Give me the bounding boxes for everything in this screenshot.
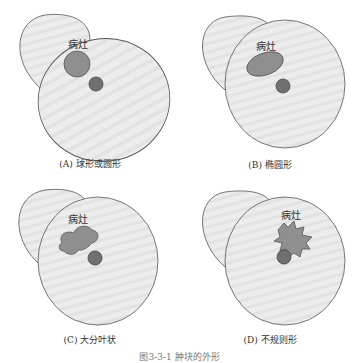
lesion-label: 病灶: [68, 211, 88, 226]
organ-diagram-d: [180, 175, 359, 353]
caption-a: (A) 球形或圆形: [0, 157, 180, 170]
panel-a: 病灶 (A) 球形或圆形: [0, 0, 180, 178]
organ-diagram-b: [180, 0, 359, 178]
lesion-label: 病灶: [68, 36, 88, 51]
caption-c: (C) 大分叶状: [0, 333, 180, 346]
vessel-dot: [88, 251, 102, 265]
panel-d: 病灶 (D) 不规则形: [180, 175, 359, 353]
organ-diagram-c: [0, 175, 180, 353]
figure-caption: 图3-3-1 肿块的外形: [0, 350, 359, 363]
organ-diagram-a: [0, 0, 180, 178]
caption-d: (D) 不规则形: [180, 333, 359, 346]
lesion-label: 病灶: [256, 38, 276, 53]
panel-c: 病灶 (C) 大分叶状: [0, 175, 180, 353]
vessel-dot: [276, 79, 290, 93]
vessel-dot: [89, 77, 103, 91]
caption-b: (B) 椭圆形: [180, 158, 359, 171]
panel-b: 病灶 (B) 椭圆形: [180, 0, 359, 178]
lesion-label: 病灶: [281, 207, 301, 222]
lesion-round: [64, 51, 90, 77]
vessel-dot: [277, 250, 291, 264]
